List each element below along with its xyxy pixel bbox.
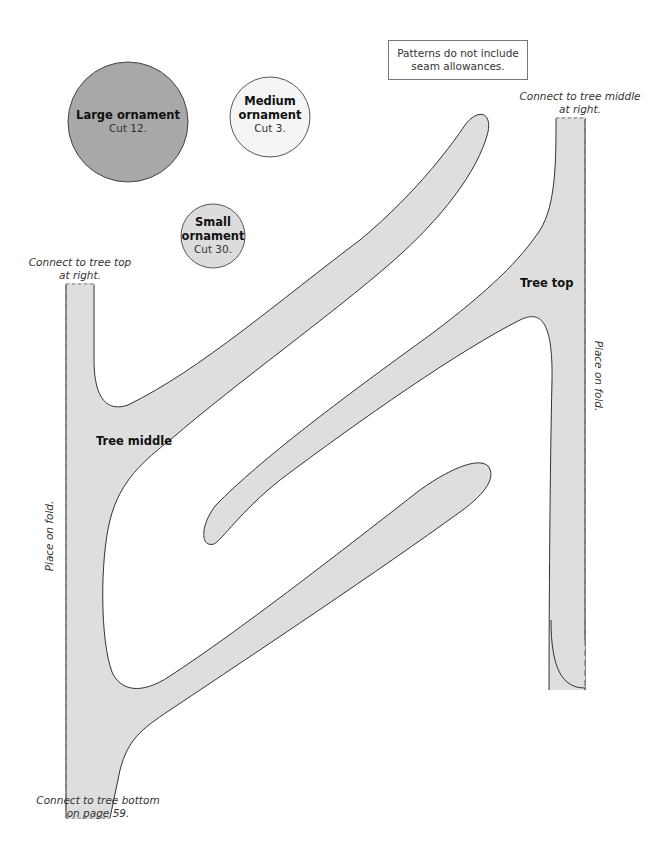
small-ornament-cut: Cut 30. <box>178 243 248 256</box>
notice-line-2: seam allowances. <box>389 60 527 73</box>
tree-top-connect-top: Connect to tree middle at right. <box>500 90 658 116</box>
medium-ornament-cut: Cut 3. <box>230 122 310 135</box>
connect-bottom-line-2: on page 59. <box>18 807 178 820</box>
connect-middle-line-2: at right. <box>500 103 658 116</box>
connect-middle-line-1: Connect to tree middle <box>500 90 658 103</box>
large-ornament-cut: Cut 12. <box>68 122 188 135</box>
connect-top-line-1: Connect to tree top <box>0 256 160 269</box>
small-ornament-title-1: Small <box>178 215 248 229</box>
notice-line-1: Patterns do not include <box>389 47 527 60</box>
tree-top-label: Tree top <box>520 276 590 290</box>
tree-middle-fold-label: Place on fold. <box>43 501 55 572</box>
small-ornament-title-2: ornament <box>178 229 248 243</box>
tree-middle-label: Tree middle <box>96 434 196 448</box>
tree-middle-connect-bottom: Connect to tree bottom on page 59. <box>18 794 178 820</box>
tree-middle-connect-top: Connect to tree top at right. <box>0 256 160 282</box>
small-ornament-label: Small ornament Cut 30. <box>178 215 248 256</box>
medium-ornament-title-1: Medium <box>230 94 310 108</box>
medium-ornament-title-2: ornament <box>230 108 310 122</box>
large-ornament-label: Large ornament Cut 12. <box>68 108 188 135</box>
tree-top-fold-label: Place on fold. <box>593 341 605 412</box>
connect-bottom-line-1: Connect to tree bottom <box>18 794 178 807</box>
connect-top-line-2: at right. <box>0 269 160 282</box>
large-ornament-title: Large ornament <box>68 108 188 122</box>
seam-allowance-notice: Patterns do not include seam allowances. <box>388 40 528 80</box>
medium-ornament-label: Medium ornament Cut 3. <box>230 94 310 135</box>
